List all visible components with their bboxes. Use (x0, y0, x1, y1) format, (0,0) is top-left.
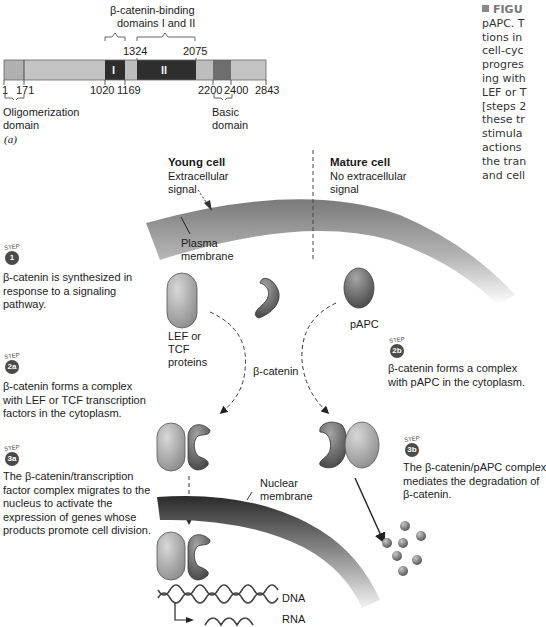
nuclear-membrane-label-line1: Nuclear (260, 477, 298, 490)
step-2a-description: β-catenin forms a complex with LEF or TC… (3, 380, 146, 421)
beta-catenin-label: β-catenin (253, 365, 298, 378)
young-cell-title: Young cell (168, 155, 225, 169)
papc-protein (344, 268, 374, 308)
dna-helix (158, 585, 278, 603)
papc-beta-complex (320, 422, 379, 468)
step-3a-description: The β-catenin/transcription factor compl… (3, 470, 151, 538)
mature-cell-sub2: signal (330, 183, 359, 196)
lef-label-line1: LEF or (168, 330, 201, 343)
step-2b-description: β-catenin forms a complex with pAPC in t… (388, 362, 525, 389)
degraded-fragments (382, 521, 426, 576)
plasma-membrane-label-line2: membrane (181, 250, 234, 263)
papc-label: pAPC (350, 318, 379, 331)
svg-text:STEP: STEP (389, 336, 405, 344)
step-badge-2a: STEP 2a (2, 349, 22, 375)
young-cell-sub2: signal (168, 183, 197, 196)
lef-label-line2: TCF (168, 343, 189, 356)
svg-text:STEP: STEP (4, 444, 20, 452)
step-badge-3b: STEP 3b (402, 432, 422, 458)
nuclear-membrane-label-line2: membrane (260, 490, 313, 503)
dna-label: DNA (282, 592, 305, 605)
plasma-membrane-label-line1: Plasma (181, 237, 218, 250)
mature-cell-title: Mature cell (330, 155, 390, 169)
rna-strand (205, 618, 253, 625)
young-cell-sub1: Extracellular (168, 170, 229, 183)
step-3b-description: The β-catenin/pAPC complex mediates the … (403, 461, 546, 502)
lef-beta-complex-cytoplasm (157, 423, 210, 471)
lef-beta-complex-nucleus (157, 532, 210, 580)
mature-cell-sub1: No extracellular (330, 170, 406, 183)
step-badge-2b: STEP 2b (387, 333, 407, 359)
lef-label-line3: proteins (168, 356, 207, 369)
step-badge-3a: STEP 3a (2, 441, 22, 467)
step-badge-1: STEP 1 (2, 240, 22, 266)
svg-text:STEP: STEP (4, 243, 20, 251)
lef-tcf-protein (167, 273, 197, 328)
svg-text:STEP: STEP (4, 352, 20, 360)
rna-label: RNA (282, 613, 305, 626)
beta-catenin-protein (255, 278, 279, 318)
svg-text:STEP: STEP (404, 435, 420, 443)
step-1-description: β-catenin is synthesized in response to … (3, 271, 132, 312)
